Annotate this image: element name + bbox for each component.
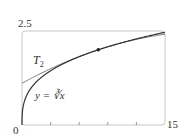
cube-root-curve bbox=[22, 32, 165, 125]
plot-frame bbox=[22, 31, 165, 125]
curve-label: y = ∛x bbox=[35, 89, 65, 102]
t2-label-sub: 2 bbox=[40, 60, 44, 69]
x-max-label: 15 bbox=[167, 118, 178, 130]
x-min-label: 0 bbox=[13, 124, 19, 136]
y-max-label: 2.5 bbox=[18, 17, 32, 29]
t2-label-main: T bbox=[33, 53, 40, 67]
tangency-point bbox=[96, 48, 100, 52]
t2-label: T2 bbox=[33, 53, 44, 69]
